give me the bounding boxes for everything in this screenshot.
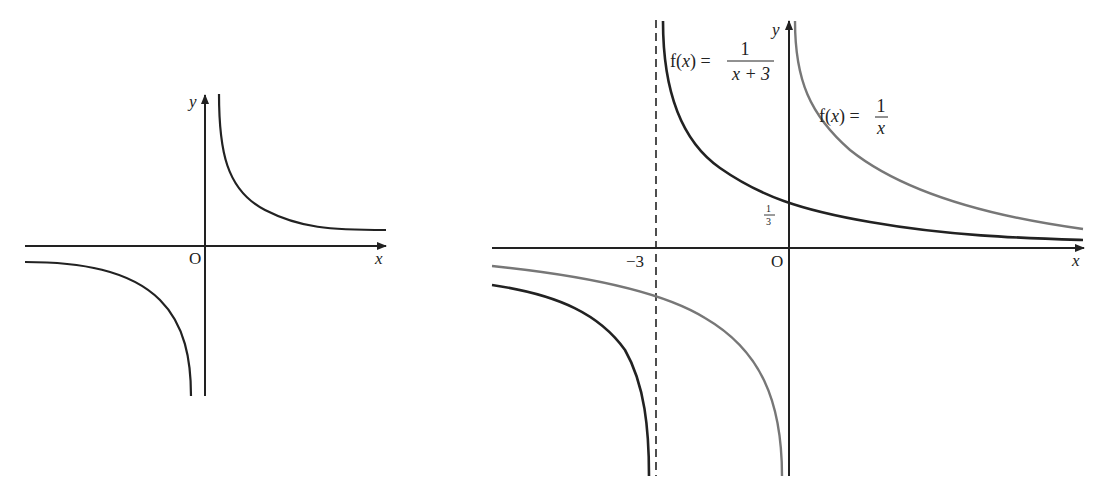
left-graph: y x O [25, 92, 386, 396]
right-graph: y x O −3 1 3 f(x) = 1 x + 3 f(x) = 1 x [492, 20, 1084, 476]
diagram: y x O y x O −3 1 3 f(x) = 1 x + 3 [0, 0, 1105, 496]
curve-1-label-num: 1 [741, 39, 750, 59]
curve-1-label: f(x) = 1 x + 3 [670, 39, 774, 84]
intercept-label: 1 3 [764, 203, 775, 227]
curve-1-label-prefix: f(x) = [670, 51, 711, 72]
curve-1-over-x-plus-3-lower [492, 285, 649, 476]
curve-2-label-num: 1 [877, 96, 886, 116]
curve-2-label-den: x [876, 118, 885, 138]
curve-2-label-prefix: f(x) = [819, 106, 860, 127]
graphs-svg: y x O y x O −3 1 3 f(x) = 1 x + 3 [0, 0, 1105, 496]
curve-1-over-x-lower [492, 266, 782, 476]
right-y-label: y [770, 20, 780, 39]
curve-2-label: f(x) = 1 x [819, 96, 888, 138]
right-x-label: x [1071, 251, 1080, 270]
asymptote-label: −3 [626, 252, 644, 271]
left-lower-branch [25, 262, 191, 396]
curve-1-over-x-plus-3-upper [663, 21, 1083, 240]
right-origin-label: O [771, 252, 783, 271]
left-y-label: y [187, 92, 197, 111]
left-x-label: x [374, 249, 383, 268]
left-origin-label: O [189, 249, 201, 268]
intercept-den: 3 [766, 216, 771, 227]
intercept-num: 1 [766, 203, 771, 214]
curve-1-label-den: x + 3 [731, 64, 770, 84]
left-upper-branch [219, 94, 386, 230]
